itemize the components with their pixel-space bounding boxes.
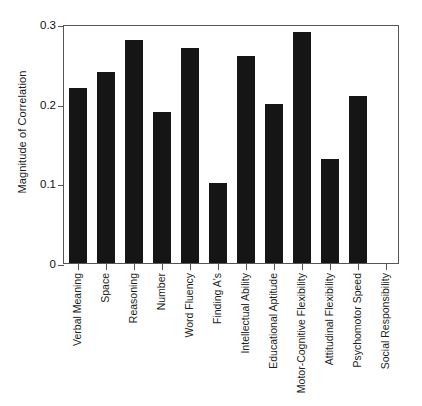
x-tick-label: Attitudinal Flexibility bbox=[324, 273, 335, 365]
x-tick-mark bbox=[386, 263, 387, 270]
x-label-slot: Educational Aptitude bbox=[259, 273, 287, 405]
x-tick-label: Intellectual Ability bbox=[240, 273, 251, 354]
x-tick-label: Reasoning bbox=[128, 273, 139, 323]
bar-chart: Magnitude of Correlation 00.10.20.3 Verb… bbox=[0, 0, 422, 406]
x-tick-mark bbox=[302, 263, 303, 270]
bar bbox=[321, 159, 339, 263]
x-label-slot: Attitudinal Flexibility bbox=[315, 273, 343, 405]
y-tick-mark bbox=[58, 185, 64, 186]
x-tick-mark bbox=[106, 263, 107, 270]
x-tick-label: Finding A's bbox=[212, 273, 223, 324]
bar bbox=[293, 32, 311, 263]
x-label-slot: Number bbox=[147, 273, 175, 405]
bar bbox=[265, 104, 283, 263]
x-tick-mark bbox=[330, 263, 331, 270]
x-tick-label: Social Responsibility bbox=[380, 273, 391, 369]
x-tick-mark bbox=[134, 263, 135, 270]
y-tick-label: 0.2 bbox=[20, 99, 56, 111]
x-tick-label: Psychomotor Speed bbox=[352, 273, 363, 368]
bar bbox=[181, 48, 199, 263]
bar bbox=[69, 88, 87, 263]
bar bbox=[237, 56, 255, 263]
y-tick-label: 0 bbox=[20, 258, 56, 270]
bar bbox=[125, 40, 143, 263]
x-label-slot: Motor-Cognitive Flexibility bbox=[287, 273, 315, 405]
bar bbox=[349, 96, 367, 263]
x-tick-label: Educational Aptitude bbox=[268, 273, 279, 369]
x-label-slot: Social Responsibility bbox=[371, 273, 399, 405]
y-tick-mark bbox=[58, 265, 64, 266]
x-label-slot: Psychomotor Speed bbox=[343, 273, 371, 405]
x-label-slot: Verbal Meaning bbox=[63, 273, 91, 405]
y-tick-mark bbox=[58, 106, 64, 107]
x-tick-mark bbox=[246, 263, 247, 270]
x-tick-label: Number bbox=[156, 273, 167, 310]
plot-area bbox=[63, 25, 399, 264]
x-label-slot: Space bbox=[91, 273, 119, 405]
x-tick-mark bbox=[274, 263, 275, 270]
y-tick-label: 0.1 bbox=[20, 178, 56, 190]
bars-layer bbox=[64, 26, 398, 263]
x-tick-label: Motor-Cognitive Flexibility bbox=[296, 273, 307, 393]
x-tick-label: Verbal Meaning bbox=[72, 273, 83, 346]
x-label-slot: Word Fluency bbox=[175, 273, 203, 405]
bar bbox=[209, 183, 227, 263]
x-label-slot: Finding A's bbox=[203, 273, 231, 405]
x-label-slot: Reasoning bbox=[119, 273, 147, 405]
x-tick-mark bbox=[162, 263, 163, 270]
x-tick-label: Word Fluency bbox=[184, 273, 195, 338]
x-tick-mark bbox=[190, 263, 191, 270]
y-tick-label: 0.3 bbox=[20, 19, 56, 31]
x-tick-label: Space bbox=[100, 273, 111, 303]
y-tick-mark bbox=[58, 26, 64, 27]
x-tick-mark bbox=[358, 263, 359, 270]
x-label-slot: Intellectual Ability bbox=[231, 273, 259, 405]
bar bbox=[97, 72, 115, 263]
y-axis-tick-labels: 00.10.20.3 bbox=[16, 0, 56, 406]
x-axis-tick-labels: Verbal MeaningSpaceReasoningNumberWord F… bbox=[63, 273, 399, 405]
x-tick-mark bbox=[218, 263, 219, 270]
bar bbox=[153, 112, 171, 263]
x-tick-mark bbox=[78, 263, 79, 270]
